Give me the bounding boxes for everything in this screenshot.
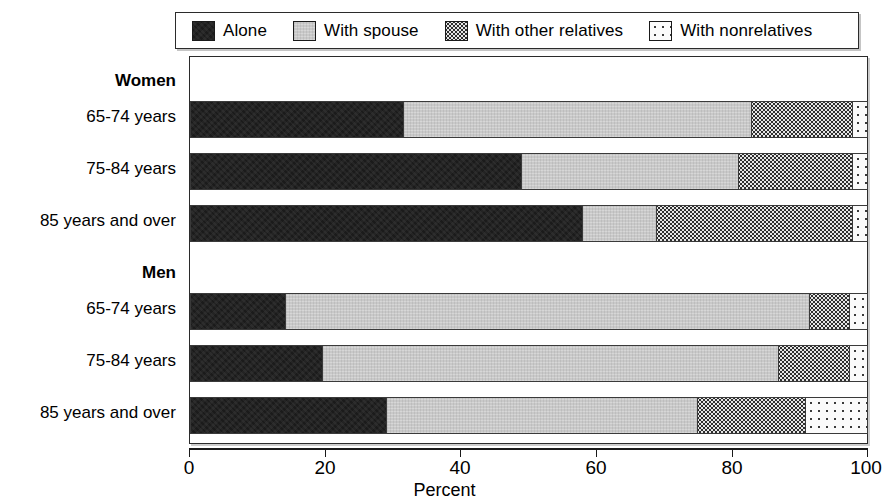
legend-item-spouse: With spouse — [293, 21, 419, 41]
bar-segment-spouse — [522, 154, 738, 189]
bar-segment-nonrelatives — [806, 398, 867, 433]
x-tick-20 — [325, 448, 326, 457]
legend-swatch-other-relatives-icon — [445, 21, 468, 41]
bar-segment-nonrelatives — [853, 154, 867, 189]
group-label-men: Men — [0, 264, 182, 282]
category-label-men-85-over: 85 years and over — [0, 404, 182, 422]
bar-segment-spouse — [387, 398, 698, 433]
bar-segment-other-relatives — [698, 398, 806, 433]
bar-segment-other-relatives — [657, 206, 853, 241]
legend-label-spouse: With spouse — [324, 22, 419, 39]
legend-swatch-alone-icon — [192, 21, 215, 41]
category-label-women-85-over: 85 years and over — [0, 212, 182, 230]
bar-segment-alone — [191, 102, 404, 137]
legend-label-other-relatives: With other relatives — [476, 22, 624, 39]
legend-label-nonrelatives: With nonrelatives — [680, 22, 812, 39]
category-label-women-65-74: 65-74 years — [0, 108, 182, 126]
x-tick-100 — [867, 448, 868, 457]
x-tick-0 — [189, 448, 190, 457]
legend-swatch-spouse-icon — [293, 21, 316, 41]
bar-row-men-75-84 — [190, 345, 868, 382]
bar-segment-other-relatives — [779, 346, 850, 381]
bar-row-women-75-84 — [190, 153, 868, 190]
chart-legend: Alone With spouse With other relatives W… — [175, 12, 859, 49]
bar-segment-alone — [191, 206, 583, 241]
legend-item-nonrelatives: With nonrelatives — [649, 21, 812, 41]
x-tick-label-60: 60 — [585, 458, 606, 478]
bar-segment-spouse — [323, 346, 779, 381]
stacked-bar-chart: Alone With spouse With other relatives W… — [0, 0, 889, 502]
bar-segment-other-relatives — [752, 102, 853, 137]
x-tick-label-0: 0 — [184, 458, 195, 478]
bar-segment-alone — [191, 154, 522, 189]
x-tick-label-20: 20 — [314, 458, 335, 478]
x-tick-80 — [732, 448, 733, 457]
x-tick-label-80: 80 — [721, 458, 742, 478]
bar-segment-spouse — [583, 206, 657, 241]
legend-item-alone: Alone — [192, 21, 267, 41]
bar-segment-nonrelatives — [850, 294, 867, 329]
category-label-men-75-84: 75-84 years — [0, 352, 182, 370]
group-label-women: Women — [0, 72, 182, 90]
bar-segment-alone — [191, 294, 286, 329]
x-tick-label-100: 100 — [850, 458, 882, 478]
category-axis-labels: Women 65-74 years 75-84 years 85 years a… — [0, 56, 182, 444]
x-tick-label-40: 40 — [449, 458, 470, 478]
legend-item-other-relatives: With other relatives — [445, 21, 624, 41]
bar-segment-nonrelatives — [850, 346, 867, 381]
legend-swatch-nonrelatives-icon — [649, 21, 672, 41]
x-axis-title: Percent — [0, 481, 889, 500]
category-label-women-75-84: 75-84 years — [0, 160, 182, 178]
x-axis-line — [189, 448, 868, 450]
bar-segment-alone — [191, 398, 387, 433]
x-tick-40 — [460, 448, 461, 457]
bar-segment-spouse — [404, 102, 752, 137]
bar-segment-other-relatives — [810, 294, 851, 329]
bar-segment-spouse — [286, 294, 810, 329]
bar-row-women-65-74 — [190, 101, 868, 138]
bar-segment-nonrelatives — [853, 206, 867, 241]
bar-row-women-85-over — [190, 205, 868, 242]
legend-label-alone: Alone — [223, 22, 267, 39]
bar-row-men-65-74 — [190, 293, 868, 330]
bar-segment-alone — [191, 346, 323, 381]
x-tick-60 — [596, 448, 597, 457]
bar-rows — [190, 57, 868, 443]
bar-segment-other-relatives — [739, 154, 854, 189]
bar-row-men-85-over — [190, 397, 868, 434]
category-label-men-65-74: 65-74 years — [0, 300, 182, 318]
bar-segment-nonrelatives — [853, 102, 867, 137]
